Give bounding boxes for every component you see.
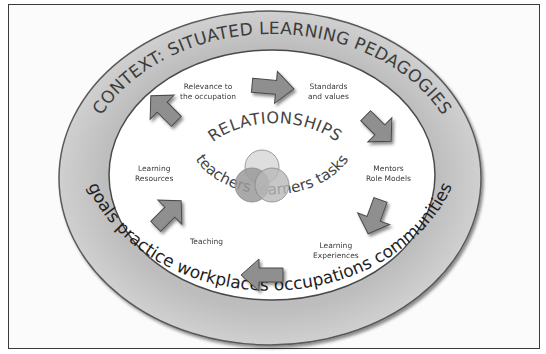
cycle-item-label: the occupation	[180, 92, 236, 102]
cycle-item-mentors: Mentors Role Models	[366, 164, 411, 184]
cycle-item-label: Role Models	[366, 174, 411, 184]
cycle-item-label: Mentors	[366, 164, 411, 174]
cycle-item-label: Resources	[135, 174, 173, 184]
diagram-canvas: CONTEXT: SITUATED LEARNING PEDAGOGIES go…	[0, 0, 546, 354]
cycle-item-label: Experiences	[313, 251, 359, 261]
cycle-item-label: Teaching	[190, 237, 223, 247]
cycle-item-label: and values	[308, 92, 349, 102]
cycle-item-relevance: Relevance to the occupation	[180, 82, 236, 102]
cycle-item-standards: Standards and values	[308, 82, 349, 102]
cycle-item-experiences: Learning Experiences	[313, 241, 359, 261]
cycle-item-label: Standards	[308, 82, 349, 92]
cycle-item-label: Relevance to	[180, 82, 236, 92]
cycle-item-label: Learning	[135, 164, 173, 174]
cycle-item-label: Learning	[313, 241, 359, 251]
cycle-item-resources: Learning Resources	[135, 164, 173, 184]
cycle-item-teaching: Teaching	[190, 237, 223, 247]
